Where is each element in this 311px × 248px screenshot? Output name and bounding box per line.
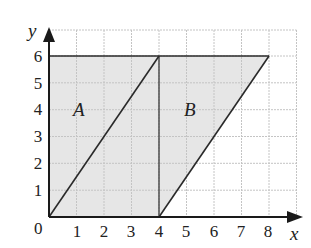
- y-axis-label: y: [26, 20, 37, 41]
- x-tick: 5: [182, 222, 191, 241]
- x-tick: 1: [73, 222, 82, 241]
- y-axis-arrow-icon: [43, 27, 55, 42]
- coordinate-diagram: y x 0 1 2 3 4 5 6 7 8 1 2 3 4 5 6 A B: [0, 0, 311, 248]
- x-axis-arrow-icon: [287, 211, 303, 223]
- y-tick: 3: [34, 127, 43, 146]
- x-tick: 8: [264, 222, 273, 241]
- y-tick: 1: [34, 181, 43, 200]
- y-tick: 4: [34, 100, 43, 119]
- origin-label: 0: [34, 219, 43, 238]
- shape-label-a: A: [71, 99, 85, 120]
- x-axis-label: x: [289, 223, 299, 244]
- y-tick-labels: 1 2 3 4 5 6: [34, 47, 43, 200]
- x-tick-labels: 1 2 3 4 5 6 7 8: [73, 222, 273, 241]
- y-tick: 2: [34, 154, 43, 173]
- x-tick: 2: [100, 222, 109, 241]
- y-tick: 5: [34, 74, 43, 93]
- x-tick: 3: [127, 222, 136, 241]
- x-tick: 7: [237, 222, 246, 241]
- y-tick: 6: [34, 47, 43, 66]
- shape-label-b: B: [184, 99, 196, 120]
- x-tick: 6: [210, 222, 219, 241]
- x-tick: 4: [155, 222, 164, 241]
